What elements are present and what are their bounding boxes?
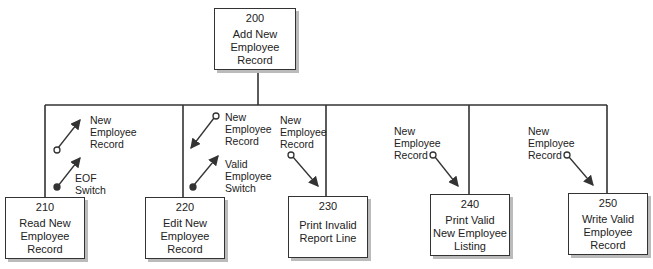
- module-label: Read New Employee Record: [6, 217, 84, 256]
- module-number: 220: [146, 201, 224, 214]
- couple-label-250-data: New Employee Record: [528, 125, 575, 161]
- module-240: 240 Print Valid New Employee Listing: [430, 194, 510, 256]
- couple-label-220-data: New Employee Record: [225, 111, 272, 147]
- couple-label-210-data: New Employee Record: [90, 114, 137, 150]
- couple-label-230-data: New Employee Record: [280, 114, 327, 150]
- module-label: Add New Employee Record: [215, 28, 295, 67]
- module-250: 250 Write Valid Employee Record: [568, 193, 648, 255]
- couple-label-210-control: EOF Switch: [75, 172, 106, 196]
- module-number: 230: [289, 200, 367, 213]
- module-230: 230 Print Invalid Report Line: [288, 196, 368, 258]
- module-200-root: 200 Add New Employee Record: [214, 8, 296, 70]
- module-label: Edit New Employee Record: [146, 217, 224, 256]
- couple-label-220-control: Valid Employee Switch: [225, 158, 272, 194]
- module-number: 200: [215, 12, 295, 25]
- module-label: Print Valid New Employee Listing: [431, 214, 509, 253]
- module-number: 210: [6, 201, 84, 214]
- couple-label-240-data: New Employee Record: [394, 125, 441, 161]
- module-number: 250: [569, 197, 647, 210]
- module-label: Print Invalid Report Line: [289, 219, 367, 245]
- module-label: Write Valid Employee Record: [569, 213, 647, 252]
- module-number: 240: [431, 198, 509, 211]
- module-220: 220 Edit New Employee Record: [145, 197, 225, 259]
- module-210: 210 Read New Employee Record: [5, 197, 85, 259]
